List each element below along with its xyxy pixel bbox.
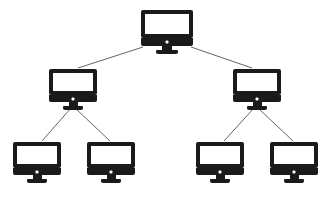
monitor-screen [273,145,315,165]
monitor-stand-base [284,179,304,183]
monitor-bottom-bar [13,168,61,175]
edge-right-3 [224,108,254,141]
monitor-stand-base [156,50,178,54]
computer-monitor-icon [141,10,193,54]
monitor-bezel [141,10,193,38]
monitor-power-indicator-icon [72,97,75,100]
computer-monitor-icon [270,142,318,183]
monitor-screen [90,145,132,165]
monitor-screen [144,13,190,35]
edge-right-4 [258,108,293,141]
monitor-node-leaf-1[interactable] [13,142,61,183]
monitor-power-indicator-icon [36,170,39,173]
monitor-bottom-bar [233,95,281,102]
monitor-node-branch-right[interactable] [233,69,281,110]
monitor-power-indicator-icon [219,170,222,173]
monitor-stand-base [210,179,230,183]
monitor-node-leaf-4[interactable] [270,142,318,183]
monitor-bezel [13,142,61,168]
computer-monitor-icon [13,142,61,183]
monitor-power-indicator-icon [293,170,296,173]
monitor-node-branch-left[interactable] [49,69,97,110]
monitor-node-leaf-3[interactable] [196,142,244,183]
monitor-power-indicator-icon [166,41,169,44]
computer-monitor-icon [49,69,97,110]
monitor-screen [199,145,241,165]
monitor-stand-base [27,179,47,183]
edge-left-1 [42,108,71,141]
monitor-screen [236,72,278,92]
monitor-bottom-bar [49,95,97,102]
monitor-power-indicator-icon [110,170,113,173]
monitor-bottom-bar [270,168,318,175]
monitor-screen [52,72,94,92]
edge-root-right [191,47,252,68]
monitor-node-root[interactable] [141,10,193,54]
monitor-bezel [233,69,281,95]
monitor-bottom-bar [196,168,244,175]
monitor-bezel [49,69,97,95]
monitor-bezel [87,142,135,168]
monitor-stand-base [63,106,83,110]
edge-left-2 [75,108,110,141]
monitor-node-leaf-2[interactable] [87,142,135,183]
monitor-stand-base [101,179,121,183]
monitor-bezel [270,142,318,168]
computer-monitor-icon [87,142,135,183]
network-topology-diagram [0,0,325,199]
monitor-screen [16,145,58,165]
monitor-bottom-bar [87,168,135,175]
monitor-bottom-bar [141,38,193,46]
monitor-bezel [196,142,244,168]
edge-root-left [78,47,143,68]
monitor-stand-base [247,106,267,110]
monitor-power-indicator-icon [256,97,259,100]
computer-monitor-icon [196,142,244,183]
computer-monitor-icon [233,69,281,110]
